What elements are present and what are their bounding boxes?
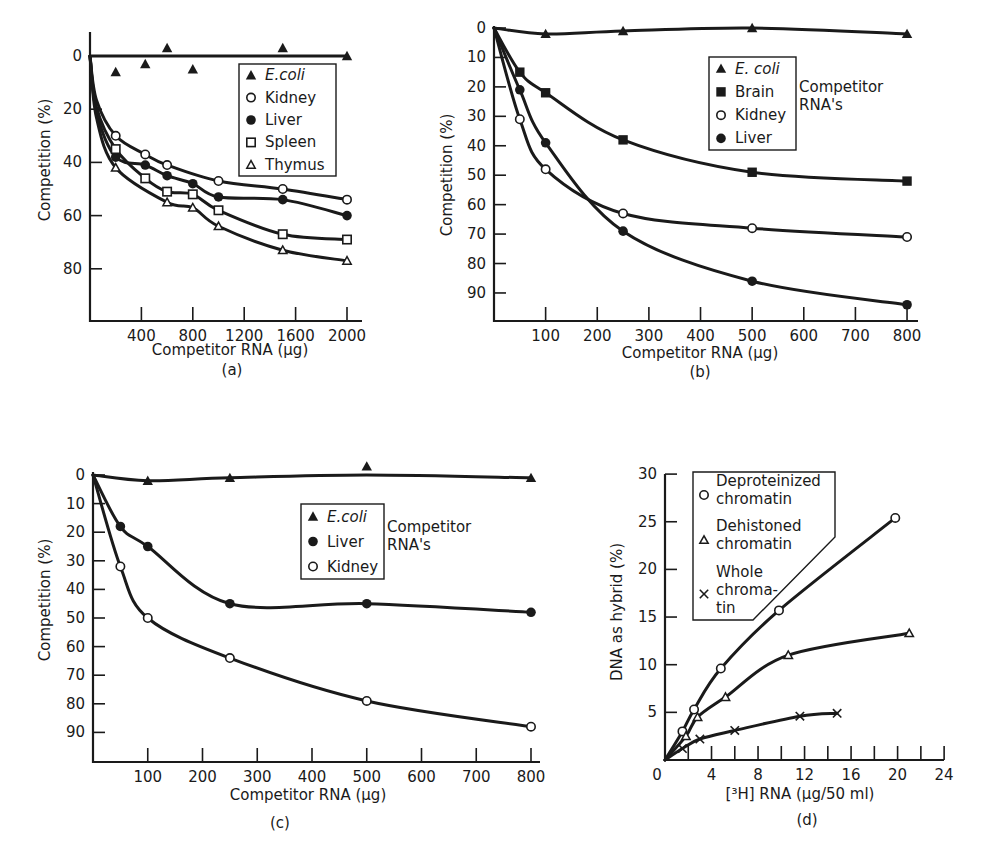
panel-d-ylabel: DNA as hybrid (%) (608, 543, 626, 681)
x-tick-label: 700 (462, 768, 491, 786)
legend-label: chromatin (716, 490, 792, 508)
y-tick-label: 0 (72, 47, 82, 65)
x-tick-label: 200 (188, 768, 217, 786)
data-point-marker (747, 168, 756, 177)
panel-b-legend-note-1: Competitor (799, 78, 884, 96)
data-point-marker (116, 562, 124, 570)
y-tick-label: 40 (467, 137, 486, 155)
series-liver (494, 28, 912, 310)
series-kidney (494, 28, 911, 241)
x-tick-label: 500 (738, 327, 767, 345)
x-tick-label: 100 (133, 768, 162, 786)
y-tick-label: 80 (63, 260, 82, 278)
y-tick-label: 5 (647, 703, 657, 721)
legend-marker (246, 115, 256, 125)
x-tick-label: 600 (407, 768, 436, 786)
data-point-marker (678, 744, 686, 752)
chart-panel-d: 5101520253004812162024Deproteinizedchrom… (638, 465, 954, 784)
data-point-marker (618, 135, 627, 144)
legend-label: chromatin (716, 535, 792, 553)
data-point-marker (343, 235, 351, 243)
legend-label: Whole (716, 563, 763, 581)
legend-label: Thymus (264, 156, 325, 174)
data-point-marker (225, 599, 235, 609)
panel-c-legend-note-1: Competitor (387, 518, 472, 536)
fit-curve (494, 28, 907, 237)
data-point-marker (526, 607, 536, 617)
data-point-marker (214, 177, 222, 185)
data-point-marker (111, 67, 121, 76)
data-point-marker (140, 160, 150, 170)
y-tick-label: 50 (66, 609, 85, 627)
figure: 020406080400800120016002000E.coliKidneyL… (0, 0, 981, 859)
y-tick-label: 60 (66, 638, 85, 656)
data-point-marker (902, 300, 912, 310)
y-tick-label: 20 (467, 78, 486, 96)
data-point-marker (278, 195, 288, 205)
y-tick-label: 80 (66, 695, 85, 713)
y-tick-label: 30 (467, 107, 486, 125)
x-tick-label: 800 (517, 768, 546, 786)
y-tick-label: 15 (638, 608, 657, 626)
y-tick-label: 80 (467, 255, 486, 273)
x-tick-label: 2000 (328, 327, 366, 345)
y-tick-label: 50 (467, 166, 486, 184)
data-point-marker (188, 64, 198, 73)
panel-b-legend-note-2: RNA's (799, 96, 843, 114)
legend-label: E.coli (327, 508, 368, 526)
panel-d-caption: (d) (796, 811, 817, 829)
series-e-coli (494, 23, 912, 38)
series-e-coli (93, 461, 536, 485)
data-point-marker (279, 230, 287, 238)
legend-label: Dehistoned (716, 517, 802, 535)
series-brain (494, 28, 912, 186)
data-point-marker (279, 185, 287, 193)
panel-b-ylabel: Competition (%) (438, 114, 456, 237)
y-tick-label: 40 (66, 580, 85, 598)
data-point-marker (140, 59, 150, 68)
legend-label: tin (716, 599, 736, 617)
data-point-marker (747, 276, 757, 286)
data-point-marker (144, 614, 152, 622)
y-tick-label: 60 (63, 207, 82, 225)
data-point-marker (784, 651, 792, 659)
data-point-marker (717, 664, 725, 672)
legend-label: Spleen (265, 133, 316, 151)
y-tick-label: 10 (467, 48, 486, 66)
panel-c-legend-note-2: RNA's (387, 536, 431, 554)
data-point-marker (163, 187, 171, 195)
y-tick-label: 10 (638, 656, 657, 674)
data-point-marker (141, 174, 149, 182)
x-tick-label: 8 (753, 766, 763, 784)
legend-marker (716, 134, 726, 144)
legend-label: Deproteinized (716, 472, 821, 490)
y-tick-label: 0 (75, 466, 85, 484)
data-point-marker (112, 132, 120, 140)
panel-a-ylabel: Competition (%) (36, 99, 54, 222)
data-point-marker (278, 43, 288, 52)
data-point-marker (279, 246, 287, 254)
data-point-marker (541, 138, 551, 148)
data-point-marker (516, 115, 524, 123)
x-tick-label: 4 (707, 766, 717, 784)
data-point-marker (342, 211, 352, 221)
panel-b-xlabel: Competitor RNA (μg) (622, 344, 779, 362)
x-tick-label: 600 (789, 327, 818, 345)
x-tick-label: 16 (842, 766, 861, 784)
data-point-marker (116, 522, 126, 532)
data-point-marker (162, 43, 172, 52)
legend-marker (247, 138, 255, 146)
legend: E. coliBrainKidneyLiver (709, 57, 796, 150)
chart-panel-b: 0102030405060708090100200300400500600700… (467, 19, 921, 345)
data-point-marker (189, 203, 197, 211)
data-point-marker (527, 722, 535, 730)
data-point-marker (188, 179, 198, 189)
y-tick-label: 25 (638, 513, 657, 531)
y-tick-label: 0 (476, 19, 486, 37)
data-point-marker (775, 606, 783, 614)
legend-label: chroma- (716, 581, 778, 599)
data-point-marker (343, 257, 351, 265)
data-point-marker (363, 697, 371, 705)
data-point-marker (541, 165, 549, 173)
x-tick-label: 300 (243, 768, 272, 786)
